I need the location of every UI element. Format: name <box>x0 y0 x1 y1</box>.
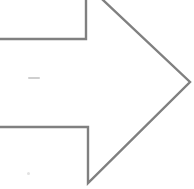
arrow-diagram-canvas <box>0 0 194 189</box>
right-arrow-outline-path <box>0 0 190 183</box>
arrow-shape-svg <box>0 0 194 189</box>
